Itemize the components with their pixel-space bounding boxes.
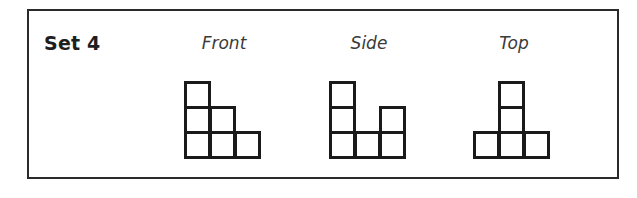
front-view-grid bbox=[184, 81, 266, 165]
grid-cell bbox=[329, 106, 356, 134]
grid-cell bbox=[523, 131, 550, 159]
front-view-label: Front bbox=[174, 33, 274, 53]
side-view-label: Side bbox=[319, 33, 419, 53]
grid-cell bbox=[184, 131, 211, 159]
grid-cell bbox=[473, 131, 500, 159]
grid-cell bbox=[379, 131, 406, 159]
grid-cell bbox=[184, 106, 211, 134]
grid-cell bbox=[234, 131, 261, 159]
grid-cell bbox=[498, 106, 525, 134]
set-title: Set 4 bbox=[44, 32, 101, 54]
grid-cell bbox=[329, 131, 356, 159]
grid-cell bbox=[379, 106, 406, 134]
grid-cell bbox=[498, 81, 525, 109]
grid-cell bbox=[354, 131, 381, 159]
top-view-label: Top bbox=[464, 33, 564, 53]
grid-cell bbox=[209, 131, 236, 159]
top-view-grid bbox=[473, 81, 555, 165]
grid-cell bbox=[209, 106, 236, 134]
grid-cell bbox=[329, 81, 356, 109]
side-view-grid bbox=[329, 81, 411, 165]
grid-cell bbox=[184, 81, 211, 109]
grid-cell bbox=[498, 131, 525, 159]
